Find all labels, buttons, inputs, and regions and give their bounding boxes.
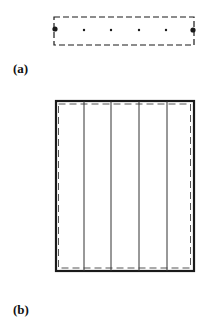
- node-row: [52, 26, 195, 32]
- panel-label-a: (a): [13, 62, 28, 75]
- panel-label-b: (b): [13, 303, 29, 316]
- solid-boundary-b: [56, 101, 194, 271]
- small-node-dot: [110, 29, 112, 31]
- diagram-canvas: [0, 0, 208, 317]
- panel-b-figure: [56, 101, 194, 271]
- dashed-boundary-b: [59, 104, 191, 268]
- strip-lines: [84, 101, 167, 271]
- small-node-dot: [165, 29, 167, 31]
- dashed-boundary-a: [54, 17, 194, 45]
- small-node-dot: [83, 29, 85, 31]
- large-node-dot: [52, 26, 57, 31]
- panel-a-figure: [52, 17, 195, 45]
- small-node-dot: [138, 29, 140, 31]
- large-node-dot: [190, 27, 195, 32]
